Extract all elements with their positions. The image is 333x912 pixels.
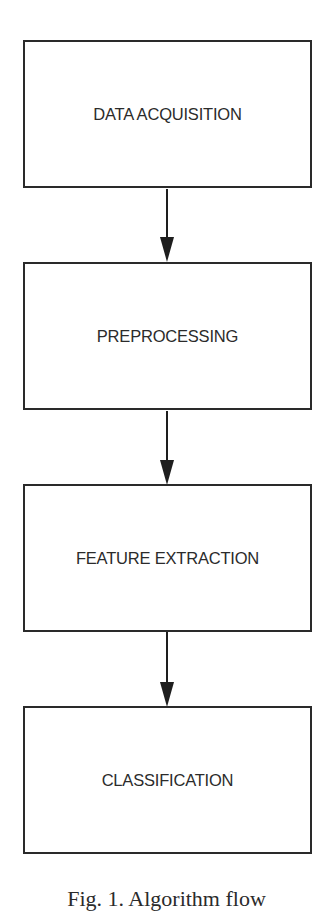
node-label: PREPROCESSING xyxy=(97,327,238,346)
arrow-down-icon xyxy=(159,189,175,263)
node-classification: CLASSIFICATION xyxy=(23,706,312,854)
arrow-down-icon xyxy=(159,632,175,708)
node-preprocessing: PREPROCESSING xyxy=(23,262,312,410)
node-data-acquisition: DATA ACQUISITION xyxy=(23,40,312,188)
arrow-down-icon xyxy=(159,411,175,486)
node-label: DATA ACQUISITION xyxy=(93,105,241,124)
figure-caption: Fig. 1. Algorithm flow xyxy=(0,886,333,912)
node-label: CLASSIFICATION xyxy=(102,771,234,790)
node-label: FEATURE EXTRACTION xyxy=(76,549,259,568)
node-feature-extraction: FEATURE EXTRACTION xyxy=(23,484,312,632)
